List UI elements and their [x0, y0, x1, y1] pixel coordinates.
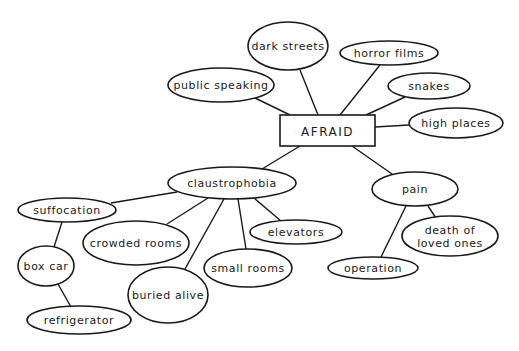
edge-claustrophobia-to-elevators: [254, 198, 281, 221]
node-label: claustrophobia: [187, 177, 277, 190]
concept-map: dark streetspublic speakinghorror filmss…: [0, 0, 519, 351]
edge-suffocation-to-box-car: [54, 222, 62, 247]
node-label-line2: loved ones: [417, 237, 483, 250]
edge-claustrophobia-to-crowded-rooms: [167, 198, 208, 224]
node-label: elevators: [268, 226, 325, 239]
node-box-car: box car: [18, 246, 74, 286]
node-buried-alive: buried alive: [128, 267, 208, 323]
node-dark-streets: dark streets: [248, 22, 328, 70]
nodes-layer: dark streetspublic speakinghorror filmss…: [18, 22, 503, 334]
edge-claustrophobia-to-suffocation: [111, 192, 177, 203]
node-snakes: snakes: [388, 73, 470, 99]
node-refrigerator: refrigerator: [27, 306, 131, 334]
edge-afraid-to-pain: [352, 146, 392, 174]
edge-claustrophobia-to-small-rooms: [238, 199, 246, 249]
node-small-rooms: small rooms: [204, 249, 292, 287]
node-afraid-center: AFRAID: [280, 115, 375, 146]
center-label: AFRAID: [301, 125, 354, 139]
edge-box-car-to-refrigerator: [58, 284, 71, 307]
node-label: snakes: [408, 80, 450, 93]
edge-afraid-to-horror-films: [340, 65, 380, 115]
edge-afraid-to-snakes: [366, 97, 405, 115]
node-label: horror films: [354, 47, 425, 60]
node-suffocation: suffocation: [18, 198, 116, 222]
edge-afraid-to-claustrophobia: [262, 146, 300, 169]
node-label: public speaking: [173, 79, 268, 92]
node-label: buried alive: [132, 289, 204, 302]
node-elevators: elevators: [250, 220, 342, 244]
edge-afraid-to-dark-streets: [300, 70, 318, 115]
node-label: box car: [24, 260, 69, 273]
node-label: suffocation: [33, 204, 101, 217]
node-horror-films: horror films: [340, 41, 438, 65]
node-crowded-rooms: crowded rooms: [83, 221, 189, 265]
edge-afraid-to-public-speaking: [255, 98, 290, 115]
node-label: high places: [421, 117, 490, 130]
node-label: death of: [425, 224, 476, 237]
node-label: dark streets: [251, 40, 324, 53]
node-death-of-loved-ones: death ofloved ones: [402, 216, 498, 256]
node-label: crowded rooms: [90, 237, 182, 250]
node-label: small rooms: [211, 262, 285, 275]
node-public-speaking: public speaking: [168, 68, 274, 102]
node-pain: pain: [372, 172, 458, 206]
node-label: refrigerator: [44, 314, 114, 327]
edge-afraid-to-high-places: [375, 125, 409, 127]
node-label: operation: [344, 262, 402, 275]
concept-map-canvas: dark streetspublic speakinghorror filmss…: [0, 0, 519, 351]
node-claustrophobia: claustrophobia: [168, 167, 296, 199]
node-operation: operation: [328, 257, 418, 279]
node-high-places: high places: [409, 108, 503, 138]
node-label: pain: [402, 183, 428, 196]
